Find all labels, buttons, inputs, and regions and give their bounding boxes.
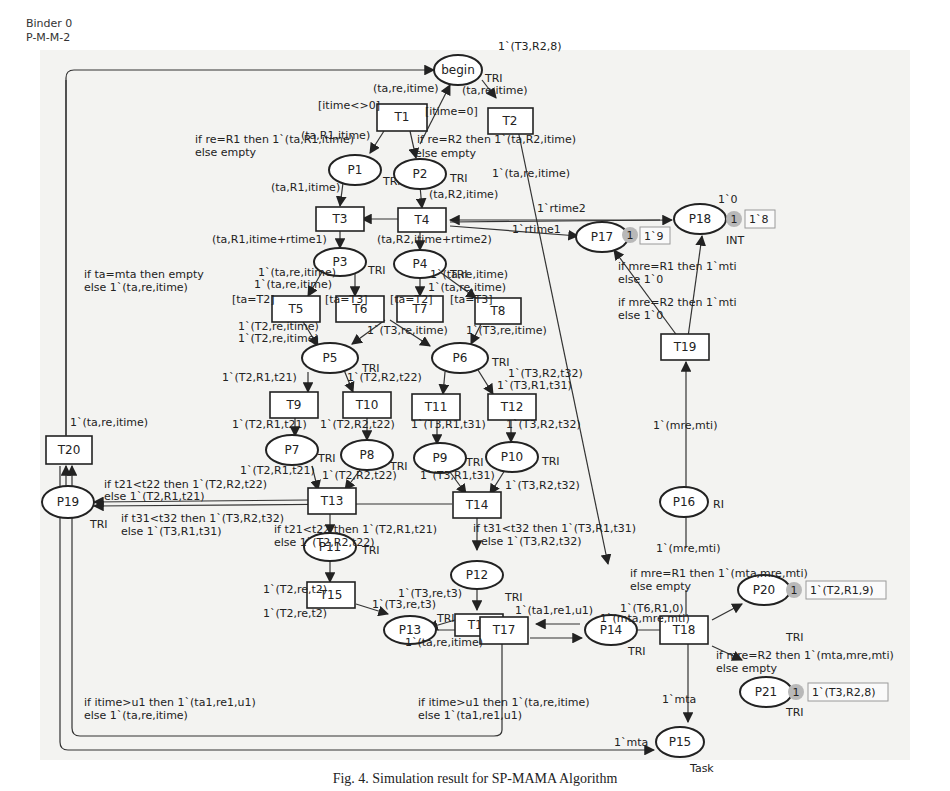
marking-box: 1`9 [640,227,670,244]
svg-text:else 1`(T2,R2,t22): else 1`(T2,R2,t22) [274,536,375,549]
svg-text:1`9: 1`9 [644,230,664,243]
svg-text:[itime<>0]: [itime<>0] [318,99,380,112]
svg-text:1: 1 [793,686,800,699]
svg-text:P17: P17 [591,230,614,244]
svg-text:1`(ta,re,itime): 1`(ta,re,itime) [428,281,506,294]
transition-t4[interactable]: T4 [398,208,446,232]
transition-t20[interactable]: T20 [46,436,92,464]
transition-t17[interactable]: T17 [480,617,528,644]
svg-text:1`(ta,re,itime): 1`(ta,re,itime) [405,636,483,649]
transition-t3[interactable]: T3 [316,207,364,231]
svg-text:1`(ta,re,itime): 1`(ta,re,itime) [254,278,332,291]
transition-t13[interactable]: T13 [308,488,356,514]
svg-text:1`rtime2: 1`rtime2 [537,202,586,215]
figure-caption: Fig. 4. Simulation result for SP-MAMA Al… [0,771,950,787]
svg-text:T17: T17 [492,623,516,637]
svg-text:(ta,R1,itime): (ta,R1,itime) [301,129,370,142]
transition-t11[interactable]: T11 [412,394,460,420]
svg-text:else 1`(ta,re,itime): else 1`(ta,re,itime) [84,281,188,294]
svg-text:else empty: else empty [630,580,692,593]
svg-text:T5: T5 [288,302,304,316]
svg-text:else empty: else empty [716,662,778,675]
svg-text:(ta,R1,itime+rtime1): (ta,R1,itime+rtime1) [212,233,327,246]
svg-text:T19: T19 [673,340,697,354]
svg-text:else 1`0: else 1`0 [618,309,663,322]
svg-text:1`(T3,R2,t32): 1`(T3,R2,t32) [506,418,581,431]
svg-text:1`(mre,mti): 1`(mre,mti) [656,542,720,555]
svg-text:P18: P18 [689,212,712,226]
transition-t9[interactable]: T9 [270,392,318,418]
transition-t1[interactable]: T1 [377,104,427,131]
svg-text:P13: P13 [399,623,422,637]
svg-text:1`(ta,re,itime): 1`(ta,re,itime) [430,268,508,281]
svg-text:1`(T2,R1,t21): 1`(T2,R1,t21) [222,371,297,384]
svg-text:TRI: TRI [317,452,336,465]
svg-text:INT: INT [726,234,744,247]
svg-text:TRI: TRI [436,612,455,625]
svg-text:(ta,re,itime): (ta,re,itime) [462,84,528,97]
svg-text:1`(T2,re,t2): 1`(T2,re,t2) [263,583,327,596]
svg-text:begin: begin [441,63,475,77]
svg-text:P19: P19 [57,495,80,509]
svg-text:if ta=mta then empty: if ta=mta then empty [84,268,204,281]
svg-text:TRI: TRI [491,356,510,369]
svg-text:if t21<t22 then 1`(T2,R1,t21): if t21<t22 then 1`(T2,R1,t21) [274,523,437,536]
svg-text:if mre=R2 then 1`mti: if mre=R2 then 1`mti [618,296,737,309]
svg-text:P6: P6 [453,351,468,365]
transition-t12[interactable]: T12 [488,394,536,420]
svg-text:(ta,re,itime): (ta,re,itime) [373,82,439,95]
svg-text:1`(T3,R2,t32): 1`(T3,R2,t32) [505,479,580,492]
transition-t14[interactable]: T14 [453,492,501,518]
svg-text:P20: P20 [753,583,776,597]
svg-text:1: 1 [731,213,738,226]
svg-text:T10: T10 [355,398,379,412]
svg-text:T3: T3 [332,212,348,226]
svg-text:[ta=T3]: [ta=T3] [325,293,368,306]
svg-text:if re=R2 then 1`(ta,R2,itime): if re=R2 then 1`(ta,R2,itime) [417,133,576,146]
svg-text:1`(T2,R2,t22): 1`(T2,R2,t22) [320,418,395,431]
svg-text:(ta,R2,itime+rtime2): (ta,R2,itime+rtime2) [377,233,492,246]
svg-text:if mre=R1 then 1`(mta,mre,mti): if mre=R1 then 1`(mta,mre,mti) [630,567,808,580]
svg-text:TRI: TRI [89,518,108,531]
svg-text:else 1`(ta1,re1,u1): else 1`(ta1,re1,u1) [418,709,522,722]
svg-text:P10: P10 [501,450,524,464]
svg-text:if t31<t32 then 1`(T3,R1,t31): if t31<t32 then 1`(T3,R1,t31) [473,522,636,535]
transition-t2[interactable]: T2 [488,108,533,134]
svg-text:P15: P15 [669,735,692,749]
svg-text:P4: P4 [413,257,428,271]
svg-text:else 1`(T2,R1,t21): else 1`(T2,R1,t21) [104,490,205,503]
svg-text:T14: T14 [465,498,489,512]
svg-text:1`(T3,re,t3): 1`(T3,re,t3) [372,598,436,611]
svg-text:(ta,R1,itime): (ta,R1,itime) [271,181,340,194]
transition-t5[interactable]: T5 [272,296,320,322]
svg-text:1`(T3,R1,t31): 1`(T3,R1,t31) [420,469,495,482]
transition-t10[interactable]: T10 [343,392,391,418]
svg-text:T13: T13 [320,494,344,508]
petri-net-canvas[interactable]: begin TRI P1 TRI P2 TRI P3 TRI P4 TRI P5… [0,0,950,791]
transition-t19[interactable]: T19 [661,334,709,360]
marking-box: 1`8 [745,210,775,228]
svg-text:else 1`(ta,re,itime): else 1`(ta,re,itime) [84,709,188,722]
svg-text:T12: T12 [500,400,524,414]
marking-box: 1`(T2,R1,9) [806,581,886,599]
svg-text:if t31<t32 then 1`(T3,R2,t32): if t31<t32 then 1`(T3,R2,t32) [121,512,284,525]
svg-text:[ta=T3]: [ta=T3] [450,293,493,306]
svg-text:1`(T2,R2,t22): 1`(T2,R2,t22) [322,469,397,482]
svg-text:[ta=T2]: [ta=T2] [390,293,433,306]
svg-text:1`(ta,re,itime): 1`(ta,re,itime) [492,167,570,180]
svg-text:if mre=R1 then 1`mti: if mre=R1 then 1`mti [618,260,737,273]
svg-text:1`mta: 1`mta [614,736,648,749]
svg-text:TRI: TRI [541,455,560,468]
svg-text:1`(T3,re,itime): 1`(T3,re,itime) [367,324,448,337]
svg-text:TRI: TRI [367,264,386,277]
svg-text:1`(T3,re,itime): 1`(T3,re,itime) [466,324,547,337]
svg-text:P2: P2 [413,167,428,181]
svg-text:1`rtime1: 1`rtime1 [512,223,561,236]
svg-text:1`(mre,mti): 1`(mre,mti) [653,419,717,432]
svg-text:P9: P9 [433,451,448,465]
svg-text:if mre=R2 then 1`(mta,mre,mti): if mre=R2 then 1`(mta,mre,mti) [716,649,894,662]
svg-text:1`(ta,re,itime): 1`(ta,re,itime) [70,416,148,429]
svg-text:TRI: TRI [504,591,523,604]
svg-text:1: 1 [791,584,798,597]
svg-text:1`(T2,R1,9): 1`(T2,R1,9) [810,584,873,597]
